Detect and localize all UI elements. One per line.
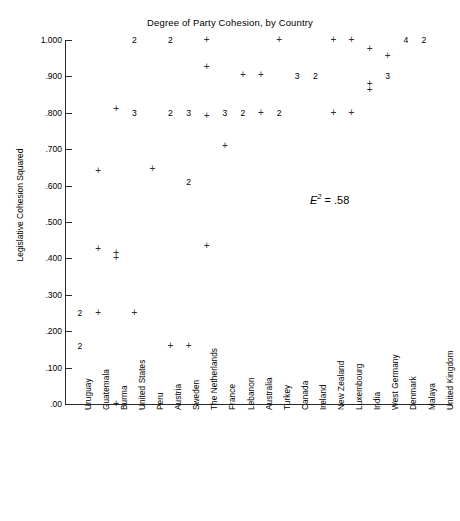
x-axis-country-label: Canada (301, 381, 310, 410)
y-axis-tick-label-text: .800 (22, 108, 62, 118)
y-axis-tick-label: .600 (18, 181, 62, 191)
x-axis-country-label: Guatemala (102, 369, 111, 410)
y-axis-tick-label-text: .500 (22, 217, 62, 227)
y-axis-tick-label-text: 1.000 (22, 35, 62, 45)
y-axis-tick (65, 258, 72, 259)
data-point-count-marker: 3 (132, 109, 137, 118)
y-axis-tick (65, 113, 72, 114)
data-point-marker: + (367, 85, 373, 95)
x-axis-country-label: Peru (156, 392, 165, 410)
data-point-count-marker: 2 (313, 72, 318, 81)
y-axis-tick (65, 331, 72, 332)
y-axis-tick (65, 186, 72, 187)
x-axis-country-label: West Germany (391, 354, 400, 410)
data-point-marker: + (385, 51, 391, 61)
y-axis-tick-label: 1.000 (18, 35, 62, 45)
data-point-marker: + (204, 62, 210, 72)
data-point-count-marker: 2 (78, 341, 83, 350)
data-point-marker: + (330, 35, 336, 45)
x-axis-country-label: United Kingdom (446, 350, 455, 410)
data-point-marker: + (204, 35, 210, 45)
y-axis-tick (65, 76, 72, 77)
data-point-count-marker: 3 (186, 109, 191, 118)
data-point-marker: + (204, 241, 210, 251)
data-point-count-marker: 3 (295, 72, 300, 81)
y-axis-tick (65, 222, 72, 223)
data-point-marker: + (258, 108, 264, 118)
x-axis-country-label: Turkey (283, 385, 292, 410)
y-axis-tick-label: .300 (18, 290, 62, 300)
x-axis-country-label: France (228, 384, 237, 410)
data-point-count-marker: 3 (222, 109, 227, 118)
data-point-marker: + (222, 141, 228, 151)
data-point-count-marker: 2 (277, 109, 282, 118)
x-axis-country-label: New Zealand (337, 361, 346, 410)
chart-figure: Degree of Party Cohesion, by Country Leg… (0, 0, 460, 521)
x-axis-country-label: The Netherlands (210, 348, 219, 410)
y-axis-tick (65, 40, 72, 41)
data-point-marker: + (349, 108, 355, 118)
data-point-marker: + (113, 253, 119, 263)
y-axis-tick-label: .00 (18, 399, 62, 409)
data-point-count-marker: 2 (422, 36, 427, 45)
y-axis-tick-label-text: .100 (22, 363, 62, 373)
x-axis-country-label: United States (138, 360, 147, 410)
y-axis-tick-label-text: .300 (22, 290, 62, 300)
data-point-count-marker: 2 (168, 109, 173, 118)
y-axis-tick-label: .700 (18, 144, 62, 154)
y-axis-tick-label-text: .400 (22, 253, 62, 263)
y-axis-tick-label: .900 (18, 71, 62, 81)
x-axis-country-label: Denmark (409, 376, 418, 410)
data-point-count-marker: 4 (403, 36, 408, 45)
data-point-marker: + (349, 35, 355, 45)
data-point-marker: + (240, 70, 246, 80)
y-axis-tick (65, 368, 72, 369)
x-axis-country-label: India (373, 392, 382, 410)
data-point-marker: + (367, 44, 373, 54)
y-axis-tick-label: .200 (18, 326, 62, 336)
y-axis-tick-label-text: .900 (22, 71, 62, 81)
y-axis-tick (65, 295, 72, 296)
y-axis-tick-label: .500 (18, 217, 62, 227)
x-axis-country-label: Uruguay (84, 378, 93, 410)
equals-sign: = (322, 194, 335, 206)
data-point-marker: + (276, 35, 282, 45)
y-axis-tick (65, 404, 72, 405)
data-point-count-marker: 2 (78, 309, 83, 318)
data-point-marker: + (258, 70, 264, 80)
y-axis-tick (65, 149, 72, 150)
e-squared-annotation: E2 = .58 (310, 192, 349, 206)
data-point-marker: + (131, 308, 137, 318)
data-point-marker: + (95, 166, 101, 176)
data-point-marker: + (204, 111, 210, 121)
data-point-marker: + (330, 108, 336, 118)
data-point-count-marker: 3 (385, 72, 390, 81)
y-axis-tick-label: .100 (18, 363, 62, 373)
data-point-count-marker: 2 (241, 109, 246, 118)
data-point-count-marker: 2 (186, 178, 191, 187)
chart-title: Degree of Party Cohesion, by Country (0, 17, 460, 28)
y-axis-tick-label-text: .200 (22, 326, 62, 336)
data-point-marker: + (186, 341, 192, 351)
x-axis-country-label: Luxembourg (355, 363, 364, 410)
e-value: .58 (334, 194, 349, 206)
data-point-marker: + (95, 244, 101, 254)
data-point-marker: + (149, 164, 155, 174)
x-axis-country-label: Burma (120, 385, 129, 410)
data-point-count-marker: 2 (168, 36, 173, 45)
y-axis-tick-label-text: .700 (22, 144, 62, 154)
x-axis-country-label: Sweden (192, 380, 201, 410)
data-point-count-marker: 2 (132, 36, 137, 45)
y-axis-tick-label-text: .00 (22, 399, 62, 409)
x-axis-country-label: Malaya (428, 383, 437, 410)
x-axis-country-label: Australia (265, 377, 274, 410)
data-point-marker: + (168, 341, 174, 351)
y-axis-tick-label: .800 (18, 108, 62, 118)
x-axis-country-label: Austria (174, 384, 183, 410)
data-point-marker: + (113, 104, 119, 114)
x-axis-country-label: Ireland (319, 384, 328, 410)
data-point-marker: + (113, 399, 119, 409)
data-point-marker: + (95, 308, 101, 318)
x-axis-country-label: Lebanon (247, 377, 256, 410)
y-axis-tick-label-text: .600 (22, 181, 62, 191)
